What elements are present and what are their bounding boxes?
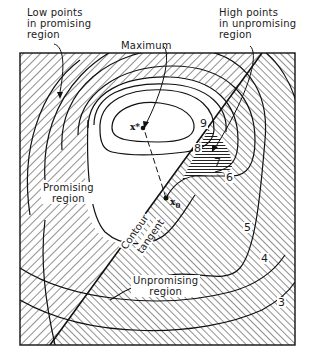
maximum-label: Maximum [121,40,172,51]
promising-line-1: Promising [43,182,94,193]
low-points-label: Low points in promising region [27,7,91,40]
start-point-label: x0 [170,197,180,210]
contour-diagram [0,0,312,360]
low-points-line-2: in promising [27,18,91,29]
high-points-line-1: High points [219,7,296,18]
high-points-line-3: region [219,29,296,40]
contour-level-7: 7 [213,157,222,168]
unpromising-line-1: Unpromising [133,275,198,286]
promising-region-label: Promising region [41,182,96,204]
low-points-line-3: region [27,29,91,40]
high-points-line-2: in unpromising [219,18,296,29]
start-point-subscript: 0 [175,201,180,210]
contour-level-4: 4 [260,253,269,264]
promising-line-2: region [43,193,94,204]
unpromising-region-label: Unpromising region [131,275,200,297]
contour-level-9: 9 [199,118,208,129]
high-points-label: High points in unpromising region [219,7,296,40]
unpromising-line-2: region [133,286,198,297]
start-point-marker [164,196,169,201]
contour-level-3: 3 [277,297,286,308]
low-points-line-1: Low points [27,7,91,18]
maximum-point-marker [141,126,146,131]
contour-level-6: 6 [225,172,234,183]
maximum-point-label: x* [130,122,140,132]
contour-level-8: 8 [193,143,202,154]
contour-level-5: 5 [243,222,252,233]
